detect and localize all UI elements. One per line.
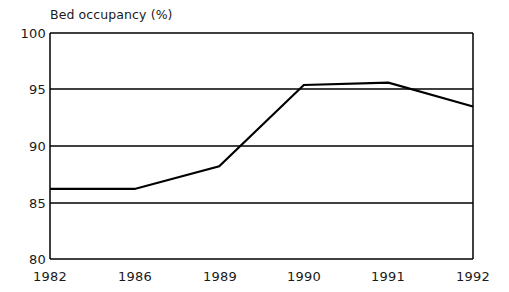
xtick-label-1989: 1989 <box>190 270 250 283</box>
xtick-label-1992: 1992 <box>443 270 503 283</box>
xtick-label-1991: 1991 <box>358 270 418 283</box>
ytick-label-80: 80 <box>4 253 46 266</box>
bed-occupancy-line-chart: Bed occupancy (%) 100 95 90 85 80 1982 1… <box>0 0 509 292</box>
ytick-label-85: 85 <box>4 197 46 210</box>
gridlines <box>50 89 473 203</box>
ytick-label-100: 100 <box>4 27 46 40</box>
xtick-label-1982: 1982 <box>20 270 80 283</box>
plot-area <box>0 0 509 292</box>
ytick-label-95: 95 <box>4 83 46 96</box>
xtick-label-1986: 1986 <box>105 270 165 283</box>
xtick-label-1990: 1990 <box>274 270 334 283</box>
data-series-line <box>50 83 473 189</box>
ytick-label-90: 90 <box>4 140 46 153</box>
